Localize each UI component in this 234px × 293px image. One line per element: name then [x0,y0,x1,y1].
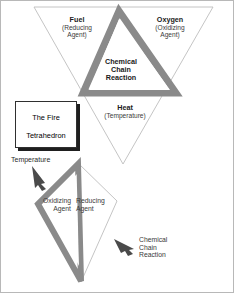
label-oxygen: Oxygen (Oxidizing Agent) [141,16,199,39]
figure-legend-box: The Fire Tetrahedron [15,101,77,148]
exploded-tetrahedron-group [32,163,134,282]
label-chain-reaction-line-3: Reaction [95,74,147,82]
label-temperature-text: Temperature [11,156,71,164]
figure-canvas: Fuel (Reducing Agent) Oxygen (Oxidizing … [0,0,234,293]
label-oxygen-qualifier-2: Agent) [141,31,199,38]
label-reducing-agent-line-1: Reducing [76,197,122,205]
temperature-arrow-icon [32,166,46,191]
label-exploded-chain-reaction-line-3: Reaction [139,251,191,259]
label-exploded-chain-reaction-line-2: Chain [139,244,191,252]
label-fuel-title: Fuel [51,16,103,24]
label-heat: Heat (Temperature) [93,104,157,119]
label-heat-qualifier-1: (Temperature) [93,112,157,119]
label-oxygen-title: Oxygen [141,16,199,24]
label-fuel-qualifier-2: Agent) [51,31,103,38]
label-temperature: Temperature [11,156,71,164]
label-oxidizing-agent-line-1: Oxidizing [23,197,71,205]
label-fuel-qualifier-1: (Reducing [51,24,103,31]
label-heat-title: Heat [93,104,157,112]
label-oxidizing-agent-line-2: Agent [23,205,71,213]
chain-reaction-arrow-icon [114,239,134,256]
label-exploded-chemical-chain-reaction: Chemical Chain Reaction [139,236,191,259]
legend-title-line-2: Tetrahedron [26,131,65,140]
label-exploded-chain-reaction-line-1: Chemical [139,236,191,244]
label-reducing-agent-line-2: Agent [76,205,122,213]
label-reducing-agent: Reducing Agent [76,197,122,212]
label-oxygen-qualifier-1: (Oxidizing [141,24,199,31]
label-fuel: Fuel (Reducing Agent) [51,16,103,39]
label-chemical-chain-reaction: Chemical Chain Reaction [95,58,147,82]
legend-title-line-1: The Fire [32,113,60,122]
label-oxidizing-agent: Oxidizing Agent [23,197,71,212]
exploded-outline-face [78,163,117,282]
